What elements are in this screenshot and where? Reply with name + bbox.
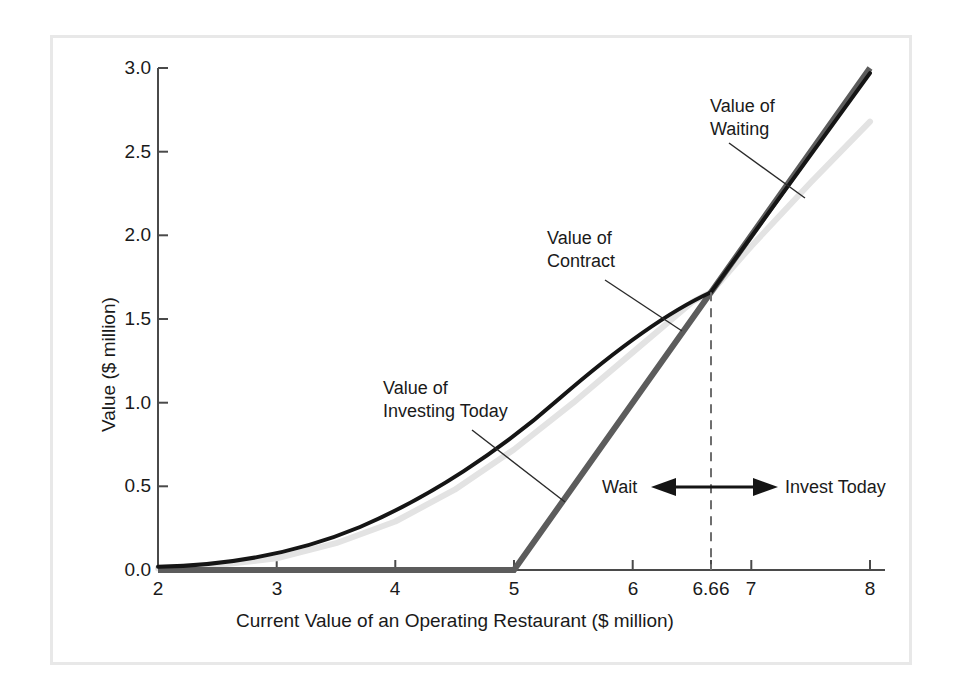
y-tick-label-4: 2.0 [105,224,151,246]
leader-line-value-of-waiting [729,143,805,198]
series-value-of-contract-smooth [158,73,870,567]
series-value-of-contract [158,73,870,567]
wait-invest-arrow [651,478,778,496]
x-tick-label-3: 5 [494,578,534,600]
leader-line-value-of-contract [605,280,682,331]
x-tick-label-0: 2 [138,578,178,600]
annotation-value-of-investing-today-line2: Investing Today [383,400,508,423]
annotation-value-of-waiting-line2: Waiting [710,118,775,141]
x-tick-label-1: 3 [257,578,297,600]
annotation-value-of-contract-line2: Contract [547,250,615,273]
annotation-wait: Wait [602,476,637,499]
y-tick-label-1: 0.5 [105,475,151,497]
annotation-value-of-contract-line1: Value of [547,227,615,250]
x-tick-label-4: 6 [613,578,653,600]
annotation-value-of-investing-today: Value of Investing Today [383,377,508,423]
annotation-value-of-investing-today-line1: Value of [383,377,508,400]
annotation-value-of-waiting: Value of Waiting [710,95,775,141]
y-axis-title: Value ($ million) [98,297,120,432]
axes-group [158,68,885,570]
annotation-value-of-contract: Value of Contract [547,227,615,273]
x-axis-title: Current Value of an Operating Restaurant… [236,610,674,632]
y-tick-marks [158,68,168,570]
y-tick-label-5: 2.5 [105,141,151,163]
series-value-of-investing-today [158,68,870,570]
x-tick-label-7: 8 [850,578,890,600]
y-tick-label-6: 3.0 [105,57,151,79]
figure-root: 0.0 0.5 1.0 1.5 2.0 2.5 3.0 2 3 4 5 6 6.… [0,0,960,700]
series-value-of-waiting [158,122,870,569]
x-tick-label-2: 4 [375,578,415,600]
x-tick-label-6: 7 [731,578,771,600]
annotation-invest-today: Invest Today [785,476,886,499]
annotation-value-of-waiting-line1: Value of [710,95,775,118]
